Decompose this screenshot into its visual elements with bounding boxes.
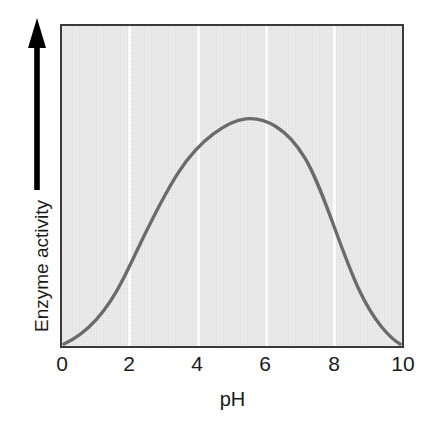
enzyme-activity-ph-chart: Enzyme activity 0 2 4 6 8 10 pH — [0, 0, 437, 428]
x-tick-label-0: 0 — [40, 352, 84, 376]
x-axis-label: pH — [220, 388, 246, 411]
plot-area — [60, 24, 404, 348]
x-tick-label-8: 8 — [312, 352, 356, 376]
enzyme-activity-curve — [62, 26, 402, 346]
x-tick-label-2: 2 — [107, 352, 151, 376]
y-axis-label: Enzyme activity — [31, 181, 53, 351]
y-axis-arrow-icon — [26, 18, 48, 190]
x-tick-label-10: 10 — [381, 352, 425, 376]
x-tick-label-4: 4 — [175, 352, 219, 376]
x-axis-label-container: pH — [0, 388, 437, 411]
x-tick-label-6: 6 — [243, 352, 287, 376]
